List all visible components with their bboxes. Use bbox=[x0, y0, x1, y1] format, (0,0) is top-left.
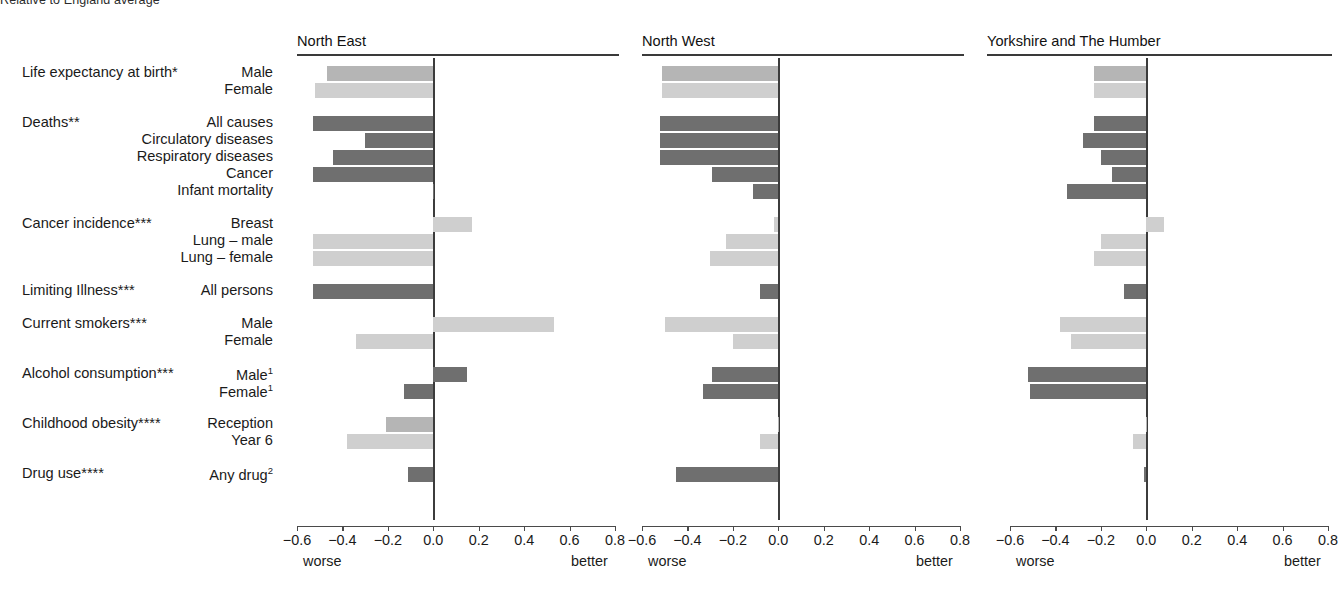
x-tick-label: 0.8 bbox=[950, 532, 970, 548]
bar bbox=[1083, 133, 1147, 148]
bar bbox=[313, 284, 433, 299]
row-label: Breast bbox=[0, 215, 283, 231]
bar bbox=[365, 133, 433, 148]
x-tick-label: −0.2 bbox=[719, 532, 747, 548]
bar bbox=[662, 66, 778, 81]
x-tick bbox=[869, 526, 870, 531]
row-label: Male bbox=[0, 315, 283, 331]
row-label: Reception bbox=[0, 415, 283, 431]
x-tick bbox=[1237, 526, 1238, 531]
bar bbox=[660, 150, 778, 165]
bar bbox=[433, 184, 434, 199]
bar bbox=[1133, 434, 1147, 449]
bar bbox=[1144, 467, 1146, 482]
axis-worse-label: worse bbox=[303, 553, 341, 569]
axis-better-label: better bbox=[571, 553, 608, 569]
row-label: Year 6 bbox=[0, 432, 283, 448]
x-tick-label: 0.8 bbox=[605, 532, 625, 548]
bar bbox=[665, 317, 779, 332]
bar bbox=[1094, 83, 1146, 98]
x-tick-label: 0.6 bbox=[905, 532, 925, 548]
panel-north-east: North East −0.6−0.4−0.20.00.20.40.60.8wo… bbox=[283, 0, 628, 616]
x-tick bbox=[433, 526, 434, 531]
bar bbox=[327, 66, 434, 81]
row-label: Circulatory diseases bbox=[0, 131, 283, 147]
x-tick bbox=[687, 526, 688, 531]
x-axis: −0.6−0.4−0.20.00.20.40.60.8worsebetter bbox=[283, 520, 628, 580]
x-tick bbox=[570, 526, 571, 531]
bar bbox=[1028, 367, 1146, 382]
x-tick-label: −0.2 bbox=[1087, 532, 1115, 548]
bar bbox=[1146, 417, 1147, 432]
x-tick-label: −0.4 bbox=[1041, 532, 1069, 548]
x-tick bbox=[1328, 526, 1329, 531]
x-tick bbox=[1192, 526, 1193, 531]
panel-underline bbox=[642, 54, 964, 56]
bar bbox=[433, 217, 472, 232]
panel-title: Yorkshire and The Humber bbox=[987, 33, 1161, 49]
x-tick-label: 0.0 bbox=[423, 532, 443, 548]
axis-better-label: better bbox=[916, 553, 953, 569]
x-tick-label: −0.6 bbox=[283, 532, 311, 548]
axis-better-label: better bbox=[1284, 553, 1321, 569]
x-tick-label: 0.2 bbox=[469, 532, 489, 548]
x-tick bbox=[960, 526, 961, 531]
bar bbox=[347, 434, 433, 449]
x-tick bbox=[733, 526, 734, 531]
bar bbox=[313, 234, 433, 249]
bar bbox=[1094, 66, 1146, 81]
bar bbox=[774, 217, 779, 232]
bar bbox=[1124, 284, 1147, 299]
bar bbox=[386, 417, 434, 432]
x-axis: −0.6−0.4−0.20.00.20.40.60.8worsebetter bbox=[973, 520, 1318, 580]
bar bbox=[1060, 317, 1146, 332]
zero-axis-line bbox=[433, 58, 434, 520]
x-tick-label: 0.8 bbox=[1318, 532, 1338, 548]
bar bbox=[333, 150, 433, 165]
x-axis: −0.6−0.4−0.20.00.20.40.60.8worsebetter bbox=[628, 520, 973, 580]
x-tick bbox=[1101, 526, 1102, 531]
bar bbox=[404, 384, 434, 399]
bar bbox=[1112, 167, 1146, 182]
bar bbox=[660, 133, 778, 148]
row-label: Cancer bbox=[0, 165, 283, 181]
x-tick bbox=[342, 526, 343, 531]
x-tick bbox=[297, 526, 298, 531]
x-tick bbox=[524, 526, 525, 531]
x-tick bbox=[778, 526, 779, 531]
row-label: Infant mortality bbox=[0, 182, 283, 198]
x-tick bbox=[1055, 526, 1056, 531]
plot-area bbox=[973, 58, 1318, 520]
bar bbox=[1071, 334, 1146, 349]
x-tick bbox=[479, 526, 480, 531]
bar bbox=[433, 367, 467, 382]
x-tick-label: 0.4 bbox=[1227, 532, 1247, 548]
axis-worse-label: worse bbox=[1016, 553, 1054, 569]
x-tick-label: −0.4 bbox=[328, 532, 356, 548]
bar bbox=[313, 116, 433, 131]
bar bbox=[703, 384, 778, 399]
row-label: Lung – female bbox=[0, 249, 283, 265]
row-label: All causes bbox=[0, 114, 283, 130]
x-tick-label: −0.2 bbox=[374, 532, 402, 548]
bar bbox=[753, 184, 778, 199]
bar bbox=[778, 417, 779, 432]
x-tick-label: −0.4 bbox=[673, 532, 701, 548]
bar bbox=[712, 167, 778, 182]
zero-axis-line bbox=[778, 58, 779, 520]
x-tick bbox=[388, 526, 389, 531]
bar bbox=[1030, 384, 1146, 399]
bar bbox=[313, 167, 433, 182]
x-tick-label: 0.4 bbox=[859, 532, 879, 548]
panel-north-west: North West −0.6−0.4−0.20.00.20.40.60.8wo… bbox=[628, 0, 973, 616]
axis-worse-label: worse bbox=[648, 553, 686, 569]
x-tick bbox=[1146, 526, 1147, 531]
x-tick-label: 0.0 bbox=[1136, 532, 1156, 548]
row-label: Female1 bbox=[0, 382, 283, 400]
x-axis-line bbox=[297, 526, 615, 527]
x-tick bbox=[824, 526, 825, 531]
panel-title: North East bbox=[297, 33, 366, 49]
x-axis-line bbox=[642, 526, 960, 527]
bar bbox=[1101, 150, 1146, 165]
bar bbox=[726, 234, 778, 249]
